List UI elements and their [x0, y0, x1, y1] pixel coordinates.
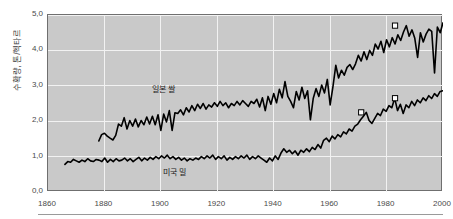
- plot-area: [47, 14, 442, 191]
- x-axis-tick: 1940: [253, 200, 293, 208]
- x-axis-tick: 1920: [196, 200, 236, 208]
- y-axis-title: 수확량, 톤/헥타르: [10, 10, 22, 110]
- series-label-japan-rice: 일본 쌀: [152, 85, 175, 94]
- y-axis-tick: 4,0: [17, 45, 43, 53]
- data-point-markers: [359, 23, 398, 115]
- y-axis-tick: 3,0: [17, 81, 43, 89]
- x-axis-tick: 1860: [27, 200, 67, 208]
- y-axis-tick: 1,0: [17, 152, 43, 160]
- y-axis-tick: 0,0: [17, 187, 43, 195]
- series-label-us-wheat: 미국 밀: [163, 168, 186, 177]
- y-axis-tick: 2,0: [17, 116, 43, 124]
- chart-canvas: [48, 15, 443, 192]
- x-axis-tick: 2000: [422, 200, 453, 208]
- x-axis-tick: 1880: [83, 200, 123, 208]
- x-axis-tick: 1960: [309, 200, 349, 208]
- footer-divider: [38, 214, 443, 215]
- yield-line-chart: 수확량, 톤/헥타르 0,01,02,03,04,05,0 1860188019…: [0, 0, 453, 219]
- x-axis-tick: 1900: [140, 200, 180, 208]
- x-axis-tick: 1980: [366, 200, 406, 208]
- y-axis-tick: 5,0: [17, 10, 43, 18]
